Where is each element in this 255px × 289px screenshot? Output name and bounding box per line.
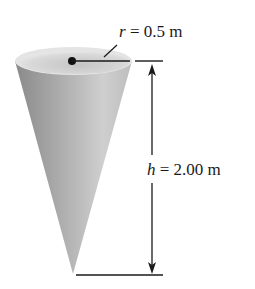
cone-diagram (0, 0, 255, 289)
height-label: h = 2.00 m (147, 161, 221, 178)
radius-label: r = 0.5 m (119, 23, 182, 40)
cone-body (15, 61, 132, 274)
radius-value: 0.5 m (144, 22, 183, 41)
radius-symbol: r (119, 22, 126, 41)
radius-equals: = (126, 22, 144, 41)
height-value: 2.00 m (174, 160, 221, 179)
height-equals: = (156, 160, 174, 179)
height-symbol: h (147, 160, 156, 179)
